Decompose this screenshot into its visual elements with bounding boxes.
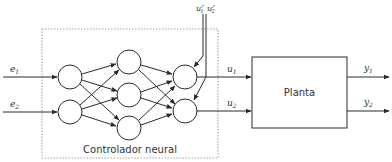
neuron	[58, 100, 82, 124]
controller-label: Controlador neural	[83, 144, 177, 155]
output-y2: y2	[347, 97, 389, 111]
control-u1: u1	[197, 64, 251, 77]
plant-label: Planta	[284, 87, 315, 98]
layer-output	[173, 65, 197, 123]
neuron	[173, 99, 197, 123]
connections-input-hidden	[80, 64, 119, 126]
neuron	[117, 116, 141, 140]
svg-text:ur1: ur1	[196, 3, 204, 14]
reference-u1	[194, 14, 203, 67]
layer-input	[58, 65, 82, 124]
svg-text:u1: u1	[227, 64, 237, 75]
neural-control-diagram: e1 e2	[0, 0, 392, 162]
svg-text:y1: y1	[363, 63, 373, 74]
layer-hidden	[117, 50, 141, 140]
input-e2: e2	[3, 99, 57, 112]
svg-text:y2: y2	[363, 97, 373, 108]
control-u2: u2	[197, 98, 251, 111]
reference-u2	[194, 14, 206, 100]
neuron	[58, 65, 82, 89]
input-e1: e1	[3, 64, 57, 77]
svg-text:ur2: ur2	[207, 3, 215, 14]
neuron	[117, 83, 141, 107]
output-y1: y1	[347, 63, 389, 77]
neuron	[173, 65, 197, 89]
neuron	[117, 50, 141, 74]
svg-text:e2: e2	[10, 99, 19, 110]
connections-hidden-output	[139, 65, 175, 125]
svg-text:u2: u2	[227, 98, 237, 109]
svg-text:e1: e1	[10, 64, 19, 75]
